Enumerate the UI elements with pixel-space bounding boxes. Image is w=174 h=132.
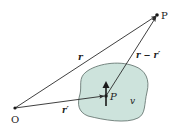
vector-r-minus-r-prime-label: r − r′	[136, 50, 161, 60]
field-point-label: P	[161, 10, 168, 21]
origin-label: O	[11, 114, 19, 125]
vector-r-label: r	[78, 52, 84, 62]
field-point	[155, 13, 159, 17]
source-point	[104, 94, 108, 98]
vector-r-prime-label: r′	[62, 105, 69, 115]
origin-point	[13, 106, 16, 109]
source-point-label: P	[109, 91, 117, 102]
region-label: v	[130, 96, 135, 106]
diagram-canvas: O P P r r′ r − r′ v	[0, 0, 174, 132]
